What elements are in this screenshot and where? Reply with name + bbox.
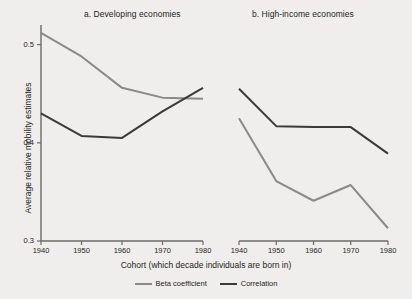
- legend-item[interactable]: Correlation: [220, 279, 278, 288]
- x-tick-label: 1970: [338, 246, 364, 255]
- y-tick-label: 0.5: [12, 40, 34, 49]
- chart-legend: Beta coefficientCorrelation: [0, 279, 412, 288]
- x-tick-label: 1940: [28, 246, 54, 255]
- series-line-correlation: [239, 89, 388, 154]
- legend-swatch-icon: [135, 283, 152, 285]
- chart-figure: a. Developing economies b. High-income e…: [0, 0, 412, 299]
- series-line-correlation: [41, 88, 203, 138]
- legend-swatch-icon: [220, 283, 237, 285]
- legend-item[interactable]: Beta coefficient: [135, 279, 207, 288]
- legend-label: Beta coefficient: [156, 279, 207, 288]
- x-tick-label: 1950: [69, 246, 95, 255]
- x-tick-label: 1960: [109, 246, 135, 255]
- y-tick-label: 0.4: [12, 138, 34, 147]
- x-tick-label: 1970: [150, 246, 176, 255]
- x-tick-label: 1960: [301, 246, 327, 255]
- series-line-beta-coefficient: [239, 118, 388, 228]
- x-tick-label: 1980: [375, 246, 401, 255]
- y-tick-label: 0.3: [12, 236, 34, 245]
- x-tick-label: 1980: [190, 246, 216, 255]
- x-tick-label: 1950: [263, 246, 289, 255]
- legend-label: Correlation: [241, 279, 278, 288]
- series-line-beta-coefficient: [41, 33, 203, 99]
- x-tick-label: 1940: [226, 246, 252, 255]
